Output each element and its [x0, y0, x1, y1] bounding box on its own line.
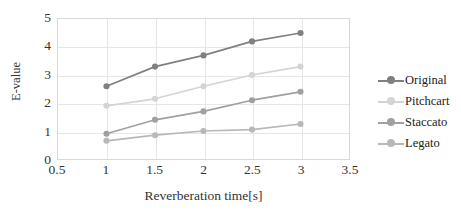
x-tick-label: 3.5	[330, 163, 370, 177]
data-point-marker	[152, 132, 158, 138]
legend-item[interactable]: Original	[378, 70, 461, 91]
data-point-marker	[152, 117, 158, 123]
x-tick-label: 2	[184, 163, 224, 177]
x-axis-title: Reverberation time[s]	[57, 188, 350, 204]
x-tick-label: 1	[86, 163, 126, 177]
data-point-marker	[249, 72, 255, 78]
legend-item-label: Original	[404, 73, 447, 88]
reverberation-evalue-line-chart: 012345 E-value Reverberation time[s] Ori…	[0, 0, 461, 219]
legend-item-label: Legato	[404, 136, 440, 151]
data-point-marker	[103, 83, 109, 89]
x-tick-label: 3	[281, 163, 321, 177]
data-point-marker	[103, 131, 109, 137]
data-point-marker	[200, 52, 206, 58]
legend-swatch-icon	[378, 75, 404, 86]
data-point-marker	[297, 30, 303, 36]
data-point-marker	[297, 64, 303, 70]
x-tick-label: 1.5	[135, 163, 175, 177]
data-point-marker	[152, 96, 158, 102]
data-point-marker	[103, 103, 109, 109]
series-lines	[58, 19, 349, 159]
data-point-marker	[103, 138, 109, 144]
data-point-marker	[200, 83, 206, 89]
data-point-marker	[249, 38, 255, 44]
plot-area	[57, 18, 350, 160]
data-point-marker	[297, 121, 303, 127]
x-tick-label: 2.5	[232, 163, 272, 177]
legend-swatch-icon	[378, 96, 404, 107]
legend-swatch-icon	[378, 138, 404, 149]
legend-item[interactable]: Legato	[378, 133, 461, 154]
y-tick-label: 5	[5, 11, 51, 25]
data-point-marker	[297, 89, 303, 95]
legend-swatch-icon	[378, 117, 404, 128]
data-point-marker	[200, 108, 206, 114]
y-tick-label: 1	[5, 125, 51, 139]
data-point-marker	[249, 127, 255, 133]
y-axis-title: E-value	[9, 47, 24, 117]
legend-item[interactable]: Staccato	[378, 112, 461, 133]
legend-item[interactable]: Pitchcart	[378, 91, 461, 112]
legend-item-label: Staccato	[404, 115, 447, 130]
data-point-marker	[152, 64, 158, 70]
x-tick-label: 0.5	[37, 163, 77, 177]
data-point-marker	[200, 128, 206, 134]
data-point-marker	[249, 97, 255, 103]
legend-item-label: Pitchcart	[404, 94, 449, 109]
chart-legend: OriginalPitchcartStaccatoLegato	[378, 70, 461, 154]
series-line	[107, 33, 301, 86]
